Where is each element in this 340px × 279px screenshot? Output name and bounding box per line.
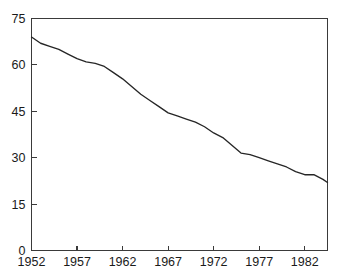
line-chart: 01530456075 1952195719621967197219771982 [0,0,340,279]
y-axis-tick-label: 60 [12,58,26,72]
chart-axes [32,19,328,251]
y-axis-tick-label: 30 [12,151,26,165]
x-axis-tick-label: 1952 [18,255,46,269]
plot-frame [32,19,328,251]
data-series-group [32,37,328,182]
x-axis-tick-labels: 1952195719621967197219771982 [18,255,319,269]
x-axis-tick-label: 1962 [109,255,137,269]
y-axis-tick-label: 75 [12,12,26,26]
x-axis-tick-label: 1967 [154,255,182,269]
chart-tick-marks [32,19,305,251]
data-line-series-1 [32,37,328,182]
x-axis-tick-label: 1972 [200,255,228,269]
x-axis-tick-label: 1977 [245,255,273,269]
x-axis-tick-label: 1957 [63,255,91,269]
y-axis-tick-label: 15 [12,198,26,212]
chart-canvas: 01530456075 1952195719621967197219771982 [0,0,340,279]
x-axis-tick-label: 1982 [291,255,319,269]
y-axis-tick-label: 45 [12,105,26,119]
y-axis-tick-labels: 01530456075 [12,12,26,258]
